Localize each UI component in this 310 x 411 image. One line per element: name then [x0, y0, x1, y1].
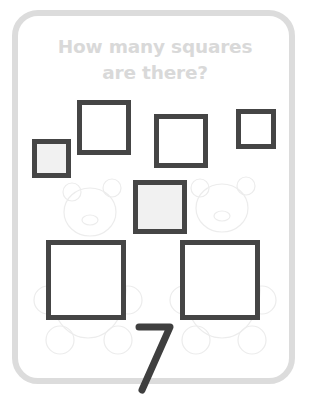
answer-seven: 7 [0, 0, 310, 411]
